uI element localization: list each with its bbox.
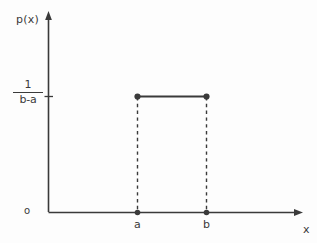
- x-axis-label: x: [303, 224, 310, 235]
- uniform-distribution-figure: p(x) x o 1 b-a a b: [0, 0, 317, 243]
- y-axis-label: p(x): [16, 14, 39, 25]
- marker-b-top: [203, 93, 209, 99]
- y-tick-label-fraction: 1 b-a: [12, 79, 44, 105]
- y-axis-arrowhead: [45, 11, 52, 20]
- marker-a-top: [134, 93, 140, 99]
- fraction-denominator: b-a: [12, 93, 44, 106]
- marker-b-base: [204, 210, 210, 216]
- marker-a-base: [135, 210, 141, 216]
- origin-label: o: [24, 206, 30, 216]
- x-tick-label-a: a: [134, 219, 141, 230]
- x-tick-label-b: b: [203, 219, 210, 230]
- x-axis-arrowhead: [294, 209, 303, 216]
- plot-canvas: [0, 0, 317, 243]
- fraction-numerator: 1: [12, 79, 44, 92]
